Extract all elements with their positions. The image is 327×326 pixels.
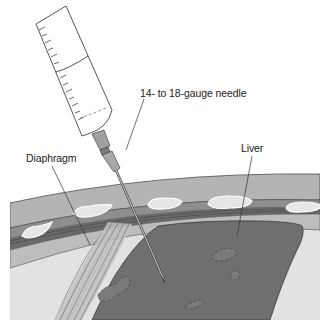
needle-leader-line [126,99,144,150]
needle-label: 14- to 18-gauge needle [140,87,246,99]
needle-hub-tip [102,151,120,172]
liver-label: Liver [241,142,263,154]
anatomy-layers [10,174,322,320]
diaphragm-label: Diaphragm [26,152,76,164]
diagram-stage: 14- to 18-gauge needle Diaphragm Liver [0,0,327,326]
syringe-barrel [36,6,112,136]
syringe [36,6,120,172]
